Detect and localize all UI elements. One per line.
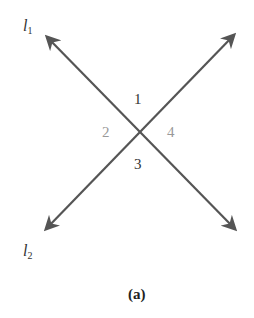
angle-4-label: 4	[167, 125, 175, 140]
angle-2-label: 2	[102, 125, 110, 140]
line-l1-label: l1	[23, 18, 32, 36]
angle-3-label: 3	[134, 157, 142, 172]
intersecting-lines-diagram	[0, 0, 254, 318]
line-l2-label: l2	[23, 243, 32, 261]
angle-1-label: 1	[134, 92, 142, 107]
figure-caption: (a)	[128, 287, 146, 302]
